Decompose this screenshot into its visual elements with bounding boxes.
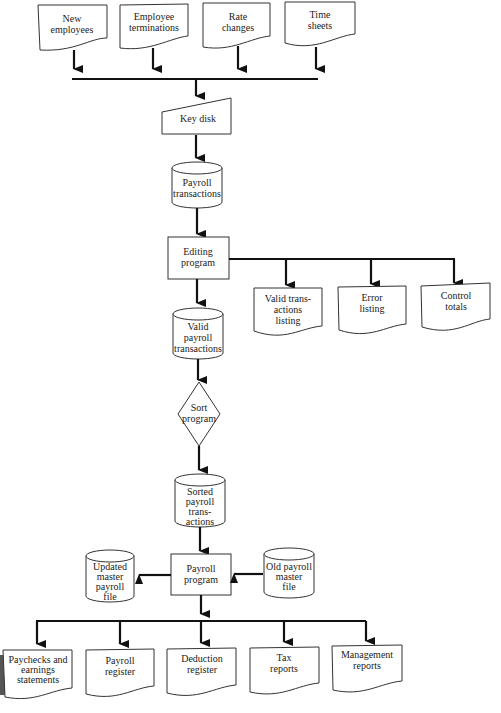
doc-employee-terminations: Employee terminations — [120, 4, 188, 49]
doc-rate-changes: Rate changes — [203, 3, 270, 48]
disk-old-payroll-master-file: Old payroll master file — [264, 548, 314, 598]
label-line: Tax — [277, 652, 292, 663]
label-line: Valid trans- — [265, 293, 311, 304]
label-line: actions — [274, 304, 302, 315]
doc-time-sheets: Time sheets — [285, 2, 355, 46]
label-line: terminations — [129, 22, 179, 33]
label-line: Payroll — [106, 655, 135, 666]
label-line: transactions — [174, 343, 222, 354]
label-line: payroll — [184, 332, 213, 343]
disk-updated-master-payroll-file: Updated master payroll file — [86, 550, 134, 602]
label-line: Editing — [183, 246, 212, 257]
doc-deduction-register: Deduction register — [167, 648, 236, 695]
label-line: Control — [441, 290, 472, 301]
process-sort-program: Sort program — [178, 382, 220, 470]
label-line: register — [105, 666, 136, 677]
label-line: file — [282, 581, 296, 592]
key-disk-step: Key disk — [162, 98, 231, 158]
label-line: transactions — [173, 188, 221, 199]
label-line: Rate — [229, 11, 248, 22]
doc-new-employees: New employees — [38, 5, 107, 50]
label-line: changes — [222, 22, 254, 33]
doc-payroll-register: Payroll register — [86, 649, 154, 696]
disk-sorted-payroll-transactions: Sorted payroll trans- actions — [175, 474, 225, 551]
label-line: sheets — [308, 20, 333, 31]
label-line: employees — [51, 24, 94, 35]
label-line: Payroll — [183, 177, 212, 188]
doc-paychecks-earnings-statements: Paychecks and earnings statements — [3, 650, 72, 699]
label-line: Error — [361, 292, 383, 303]
label-line: reports — [353, 660, 381, 671]
label-line: Key disk — [180, 113, 216, 124]
label-line: program — [184, 574, 218, 585]
doc-valid-transactions-listing: Valid trans- actions listing — [254, 288, 322, 335]
label-line: Valid — [187, 321, 208, 332]
disk-payroll-transactions: Payroll transactions — [172, 162, 222, 234]
input-connectors — [72, 46, 318, 96]
label-line: Management — [341, 649, 393, 660]
disk-valid-payroll-transactions: Valid payroll transactions — [173, 308, 223, 380]
label-line: register — [187, 664, 218, 675]
label-line: listing — [275, 315, 300, 326]
label-line: New — [63, 13, 83, 24]
label-line: reports — [270, 663, 298, 674]
doc-error-listing: Error listing — [338, 286, 406, 334]
doc-management-reports: Management reports — [332, 645, 402, 692]
label-line: Deduction — [181, 653, 223, 664]
label-line: statements — [17, 674, 59, 685]
label-line: Sort — [191, 402, 208, 413]
label-line: Time — [310, 9, 331, 20]
label-line: Payroll — [187, 563, 216, 574]
label-line: program — [181, 257, 215, 268]
label-line: file — [103, 591, 117, 602]
label-line: program — [182, 413, 216, 424]
doc-control-totals: Control totals — [421, 283, 490, 330]
label-line: totals — [445, 301, 467, 312]
label-line: listing — [359, 303, 384, 314]
label-line: actions — [186, 516, 214, 527]
payroll-flowchart: New employees Employee terminations Rate… — [0, 0, 501, 713]
doc-tax-reports: Tax reports — [250, 647, 319, 694]
label-line: Employee — [134, 11, 175, 22]
